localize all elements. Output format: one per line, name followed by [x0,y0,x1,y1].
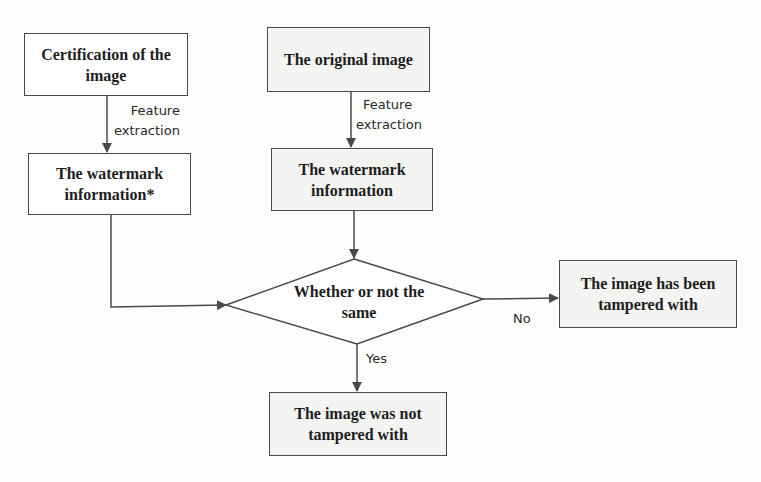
arrow-left-to-decision [111,215,226,307]
not-tampered-box: The image was not tampered with [269,392,447,456]
original-image-label: The original image [284,49,413,70]
left-extraction-word: extraction [114,121,180,141]
certification-label: Certification of the image [31,44,181,86]
watermark-right-box: The watermark information [271,148,433,211]
no-label-text: No [513,309,531,329]
watermark-right-label: The watermark information [278,159,426,201]
decision-label-text: Whether or not the same [294,283,425,321]
arrow-no [483,298,558,299]
decision-label: Whether or not the same [286,281,432,323]
flowchart-canvas: Certification of the image The watermark… [0,0,761,482]
left-feature-word: Feature [114,101,180,121]
right-extraction-word: extraction [356,115,422,135]
left-feature-extraction-label: Feature extraction [114,101,180,141]
certification-box: Certification of the image [24,33,188,96]
not-tampered-label: The image was not tampered with [276,403,440,445]
no-label: No [513,309,531,329]
watermark-left-box: The watermark information* [28,153,191,215]
yes-label-text: Yes [366,349,387,369]
tampered-label: The image has been tampered with [566,273,730,315]
tampered-box: The image has been tampered with [559,260,737,328]
right-feature-extraction-label: Feature extraction [356,95,422,135]
yes-label: Yes [366,349,387,369]
watermark-left-label: The watermark information* [35,163,184,205]
original-image-box: The original image [267,27,430,92]
right-feature-word: Feature [356,95,422,115]
